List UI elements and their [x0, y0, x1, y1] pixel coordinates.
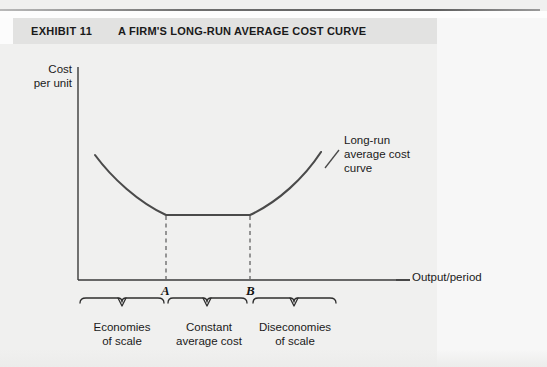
page-bottom-fade	[0, 349, 547, 367]
curve-annotation-label: Long-run average cost curve	[344, 133, 410, 175]
curve-label-leader-line	[325, 150, 339, 168]
x-axis-label: Output/period	[412, 271, 482, 283]
y-axis-label: Cost per unit	[12, 62, 72, 90]
bracket-caption-constant-average-cost: Constant average cost	[166, 320, 252, 348]
exhibit-page: EXHIBIT 11 A FIRM'S LONG-RUN AVERAGE COS…	[0, 0, 547, 367]
bracket-caption-diseconomies-of-scale: Diseconomies of scale	[251, 320, 339, 348]
point-label-a: A	[161, 283, 170, 299]
bracket-constant-average-cost	[168, 298, 247, 303]
bracket-diseconomies-of-scale	[253, 298, 336, 303]
cost-curve-chart	[0, 0, 547, 367]
bracket-economies-of-scale	[80, 298, 164, 303]
long-run-average-cost-curve	[95, 152, 321, 215]
bracket-caption-economies-of-scale: Economies of scale	[78, 320, 166, 348]
point-label-b: B	[246, 283, 255, 299]
